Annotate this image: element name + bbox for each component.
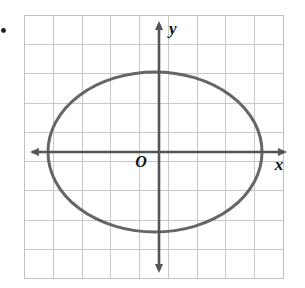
item-bullet-icon (1, 28, 6, 33)
figure-background (0, 0, 305, 288)
graph-figure: y x O (0, 0, 305, 288)
x-axis-label: x (274, 155, 284, 174)
y-axis-label: y (167, 19, 177, 38)
coordinate-plane-svg: y x O (0, 0, 305, 288)
origin-label: O (135, 153, 147, 170)
